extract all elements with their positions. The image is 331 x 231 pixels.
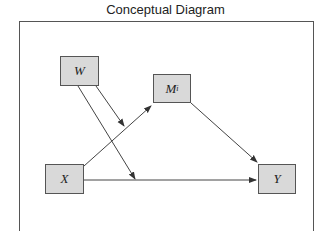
node-w: W [60, 56, 99, 86]
node-x: X [45, 164, 84, 194]
node-m: Mi [153, 74, 191, 103]
edge-x-to-m [84, 106, 151, 166]
edge-m-to-y [191, 103, 257, 162]
edge-w-moderates-x-y [78, 86, 135, 179]
node-y: Y [258, 164, 296, 194]
edges-layer [0, 0, 331, 231]
edge-w-moderates-x-m [96, 86, 124, 126]
